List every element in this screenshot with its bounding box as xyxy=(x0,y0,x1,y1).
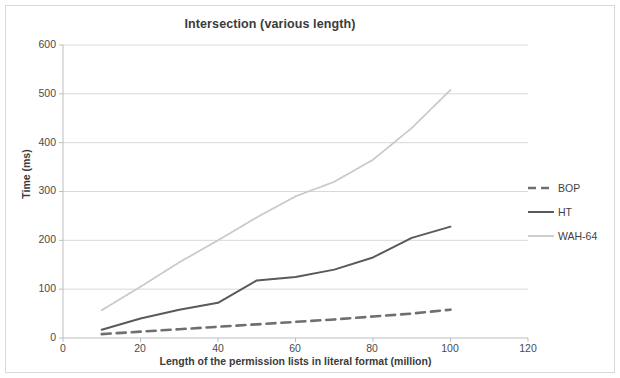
legend-item-ht[interactable]: HT xyxy=(528,200,614,224)
legend-swatch-wah64 xyxy=(528,231,554,241)
legend-label-ht: HT xyxy=(558,206,572,218)
gridlines xyxy=(63,45,528,289)
legend-swatch-ht xyxy=(528,207,554,217)
legend-item-bop[interactable]: BOP xyxy=(528,176,614,200)
chart-legend: BOP HT WAH-64 xyxy=(528,176,614,248)
data-series-group xyxy=(102,90,451,334)
y-tick-marks xyxy=(59,45,63,338)
x-tick-marks xyxy=(63,338,528,342)
series-line-wah-64 xyxy=(102,90,451,310)
legend-item-wah64[interactable]: WAH-64 xyxy=(528,224,614,248)
legend-label-bop: BOP xyxy=(558,182,580,194)
legend-label-wah64: WAH-64 xyxy=(558,230,597,242)
legend-swatch-bop xyxy=(528,183,554,193)
chart-figure: Intersection (various length) Time (ms) … xyxy=(0,0,620,378)
series-line-bop xyxy=(102,310,451,334)
plot-area xyxy=(0,0,620,378)
